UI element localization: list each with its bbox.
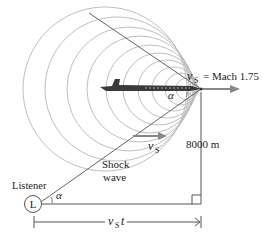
shock-wave-diagram: L Listener α α v S = Mach 1.75 v S 8000 … bbox=[0, 0, 263, 239]
shock-label-line1: Shock bbox=[102, 158, 130, 170]
distance-symbol: v bbox=[108, 214, 114, 228]
speed-value: = Mach 1.75 bbox=[203, 70, 259, 82]
distance-suffix: t bbox=[121, 214, 125, 228]
shock-label-line2: wave bbox=[103, 171, 126, 183]
plane-icon bbox=[100, 79, 201, 91]
speed-symbol: v bbox=[187, 69, 193, 83]
speed-subscript: S bbox=[194, 76, 198, 85]
listener-marker-label: L bbox=[30, 198, 37, 210]
listener-label: Listener bbox=[12, 180, 47, 191]
altitude-label: 8000 m bbox=[186, 138, 220, 150]
shock-speed-subscript: S bbox=[155, 146, 159, 155]
distance-subscript: S bbox=[115, 221, 119, 230]
shock-speed-symbol: v bbox=[148, 139, 154, 153]
right-angle-marker bbox=[192, 195, 201, 204]
velocity-arrow-plane bbox=[201, 85, 240, 93]
shock-cone-upper bbox=[89, 13, 201, 89]
angle-label-apex: α bbox=[168, 89, 174, 101]
angle-label-listener: α bbox=[56, 189, 62, 201]
